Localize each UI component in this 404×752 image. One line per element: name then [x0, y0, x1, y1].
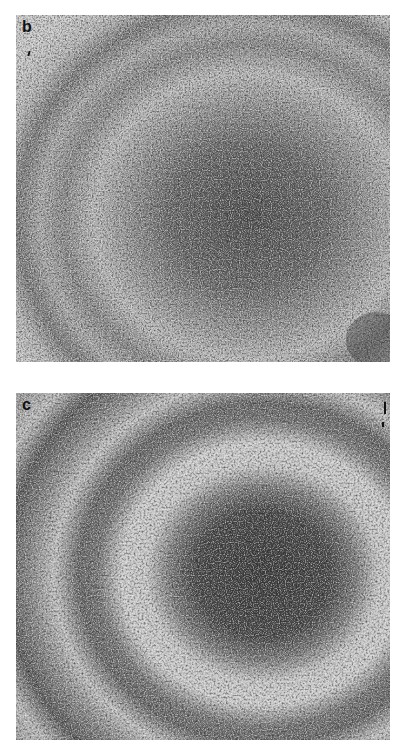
- panel-label-c: c: [22, 397, 31, 413]
- micrograph-panel-b: b: [16, 15, 390, 362]
- micrograph-panel-c: c: [16, 393, 390, 740]
- scale-bar-icon: [384, 402, 386, 414]
- annotation-mark-icon: [382, 422, 384, 427]
- panel-label-b: b: [22, 19, 32, 35]
- micrograph-texture-b: [16, 15, 390, 362]
- micrograph-texture-c: [16, 393, 390, 740]
